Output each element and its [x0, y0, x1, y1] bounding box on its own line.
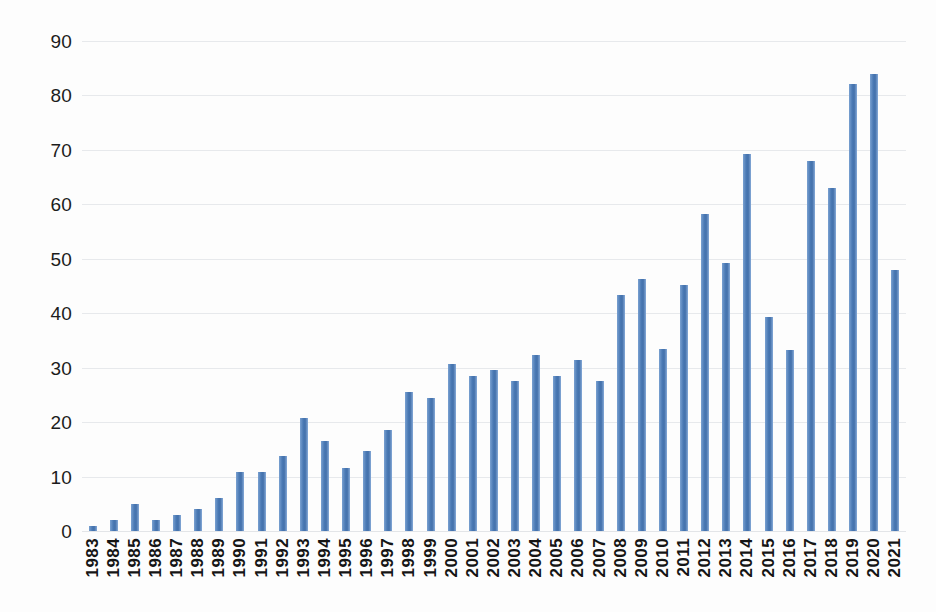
x-axis-tick-label: 1985: [125, 538, 145, 577]
bar-slot: [737, 41, 758, 531]
bar-slot: [441, 41, 462, 531]
bar[interactable]: [659, 349, 667, 531]
x-axis: 1983198419851986198719881989199019911992…: [82, 536, 906, 598]
x-axis-slot: 2020: [864, 536, 885, 598]
bar[interactable]: [258, 472, 266, 531]
bar[interactable]: [532, 355, 540, 531]
x-axis-slot: 2007: [589, 536, 610, 598]
bar[interactable]: [596, 381, 604, 531]
x-axis-slot: 2009: [631, 536, 652, 598]
bar-slot: [652, 41, 673, 531]
y-axis-tick-label: 60: [26, 195, 72, 214]
bar[interactable]: [194, 509, 202, 531]
bar[interactable]: [617, 295, 625, 531]
x-axis-slot: 2001: [462, 536, 483, 598]
x-axis-tick-label: 1990: [230, 538, 250, 577]
x-axis-slot: 2014: [737, 536, 758, 598]
x-axis-tick-label: 1996: [357, 538, 377, 577]
bar[interactable]: [173, 515, 181, 531]
bar-slot: [821, 41, 842, 531]
bar[interactable]: [680, 285, 688, 531]
y-axis-tick-label: 70: [26, 140, 72, 159]
bar[interactable]: [384, 430, 392, 531]
y-axis-tick-label: 40: [26, 304, 72, 323]
x-axis-tick-label: 2005: [547, 538, 567, 577]
x-axis-slot: 1990: [230, 536, 251, 598]
bar[interactable]: [89, 526, 97, 531]
x-axis-tick-label: 2011: [674, 538, 694, 576]
bar-slot: [209, 41, 230, 531]
x-axis-tick-label: 1994: [315, 538, 335, 577]
bar[interactable]: [236, 472, 244, 531]
bar[interactable]: [828, 188, 836, 531]
bar[interactable]: [490, 370, 498, 531]
bar[interactable]: [701, 214, 709, 531]
x-axis-slot: 2006: [568, 536, 589, 598]
bar[interactable]: [448, 364, 456, 531]
bar[interactable]: [786, 350, 794, 531]
x-axis-tick-label: 2010: [653, 538, 673, 577]
bar[interactable]: [300, 418, 308, 531]
x-axis-slot: 2010: [652, 536, 673, 598]
x-axis-slot: 2021: [885, 536, 906, 598]
bar[interactable]: [279, 456, 287, 531]
bar-slot: [420, 41, 441, 531]
bar-slot: [462, 41, 483, 531]
x-axis-tick-label: 2012: [695, 538, 715, 577]
x-axis-slot: 1986: [145, 536, 166, 598]
x-axis-slot: 2016: [779, 536, 800, 598]
bar[interactable]: [342, 468, 350, 531]
bar[interactable]: [638, 279, 646, 531]
bar[interactable]: [511, 381, 519, 531]
x-axis-slot: 2008: [610, 536, 631, 598]
bar-slot: [779, 41, 800, 531]
bar[interactable]: [722, 263, 730, 531]
x-axis-tick-label: 2020: [864, 538, 884, 577]
gridline: [82, 531, 906, 532]
bar-slot: [864, 41, 885, 531]
x-axis-slot: 2004: [526, 536, 547, 598]
bar[interactable]: [152, 520, 160, 531]
x-axis-tick-label: 2007: [590, 538, 610, 577]
bar[interactable]: [427, 398, 435, 531]
x-axis-tick-label: 1999: [421, 538, 441, 577]
x-axis-slot: 2000: [441, 536, 462, 598]
x-axis-slot: 1996: [357, 536, 378, 598]
bar-series: [82, 41, 906, 531]
bar-slot: [885, 41, 906, 531]
bar[interactable]: [110, 520, 118, 531]
x-axis-slot: 1988: [188, 536, 209, 598]
x-axis-tick-label: 2013: [716, 538, 736, 577]
bar[interactable]: [807, 161, 815, 531]
y-axis-tick-label: 80: [26, 86, 72, 105]
x-axis-tick-label: 2004: [526, 538, 546, 577]
bar[interactable]: [765, 317, 773, 532]
y-axis-tick-label: 0: [26, 522, 72, 541]
bar[interactable]: [405, 392, 413, 531]
bar[interactable]: [215, 498, 223, 531]
x-axis-tick-label: 2008: [611, 538, 631, 577]
bar[interactable]: [553, 376, 561, 531]
bar[interactable]: [469, 376, 477, 531]
bar-slot: [251, 41, 272, 531]
bar[interactable]: [131, 504, 139, 531]
bar[interactable]: [321, 441, 329, 531]
x-axis-slot: 2017: [800, 536, 821, 598]
bar[interactable]: [363, 451, 371, 531]
x-axis-tick-label: 1987: [167, 538, 187, 577]
x-axis-tick-label: 1991: [252, 538, 272, 577]
bar[interactable]: [743, 154, 751, 531]
bar-slot: [293, 41, 314, 531]
bar[interactable]: [849, 84, 857, 531]
x-axis-tick-label: 2006: [568, 538, 588, 577]
x-axis-slot: 1983: [82, 536, 103, 598]
bar-slot: [103, 41, 124, 531]
bar-slot: [674, 41, 695, 531]
bar[interactable]: [891, 270, 899, 531]
x-axis-tick-label: 2009: [632, 538, 652, 577]
x-axis-slot: 1984: [103, 536, 124, 598]
bar[interactable]: [574, 360, 582, 531]
bar-slot: [124, 41, 145, 531]
bar-slot: [357, 41, 378, 531]
bar[interactable]: [870, 74, 878, 531]
